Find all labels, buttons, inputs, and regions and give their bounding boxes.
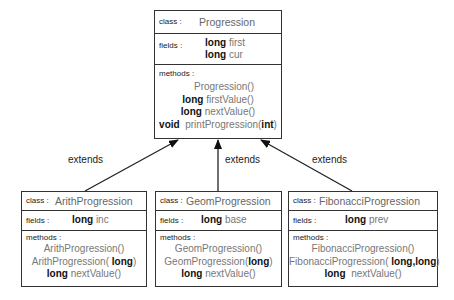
class-name: ArithProgression [55,195,133,207]
field-base: long base [201,214,247,225]
methods-row: methods : ArithProgression() ArithProgre… [22,231,146,286]
class-box-arith-progression: class : ArithProgression fields : long i… [21,191,147,287]
class-name-row: class : FibonacciProgression [289,192,437,211]
field-cur: long cur [205,49,245,61]
field-first: long first [205,37,245,49]
fields-row: fields : long prev [289,211,437,231]
class-label: class : [160,196,183,205]
method-constructor-long: GeomProgression(long) [156,256,281,269]
methods-label: methods : [293,233,328,242]
method-nextValue: long nextValue() [289,268,437,281]
class-box-fibonacci-progression: class : FibonacciProgression fields : lo… [288,191,438,287]
methods-label: methods : [159,69,194,78]
class-label: class : [26,196,49,205]
arrow-arith-to-progression [85,140,178,191]
fields-label: fields : [26,216,49,225]
fields-label: fields : [160,216,183,225]
class-label: class : [293,196,316,205]
method-nextValue: long nextValue() [156,268,281,281]
method-firstValue: long firstValue() [155,94,281,107]
class-box-progression: class : Progression fields : long first … [154,10,282,139]
method-nextValue: long nextValue() [155,106,281,119]
method-nextValue: long nextValue() [22,268,146,281]
extends-label-fib: extends [312,154,347,165]
class-box-geom-progression: class : GeomProgression fields : long ba… [155,191,282,287]
fields-row: fields : long base [156,211,281,231]
method-constructor-long-long: FibonacciProgression( long,long) [289,256,437,269]
method-constructor: FibonacciProgression() [289,243,437,256]
extends-label-geom: extends [225,154,260,165]
method-printProgression: void printProgression(int) [155,119,281,132]
class-name: Progression [199,16,255,28]
method-constructor: GeomProgression() [156,243,281,256]
method-constructor: ArithProgression() [22,243,146,256]
methods-label: methods : [160,233,195,242]
extends-label-arith: extends [68,154,103,165]
class-label: class : [159,17,182,26]
class-name: FibonacciProgression [319,195,420,207]
fields-row: fields : long first long cur [155,34,281,65]
fields-label: fields : [159,41,182,50]
arrow-fib-to-progression [261,140,352,191]
class-name-row: class : Progression [155,11,281,34]
methods-label: methods : [26,233,61,242]
class-name-row: class : GeomProgression [156,192,281,211]
method-constructor-long: ArithProgression( long) [22,256,146,269]
methods-row: methods : FibonacciProgression() Fibonac… [289,231,437,286]
field-inc: long inc [72,214,109,225]
methods-row: methods : Progression() long firstValue(… [155,65,281,138]
class-name-row: class : ArithProgression [22,192,146,211]
fields-row: fields : long inc [22,211,146,231]
methods-row: methods : GeomProgression() GeomProgress… [156,231,281,286]
method-constructor: Progression() [155,81,281,94]
field-prev: long prev [345,214,388,225]
class-name: GeomProgression [186,195,271,207]
fields-label: fields : [293,216,316,225]
